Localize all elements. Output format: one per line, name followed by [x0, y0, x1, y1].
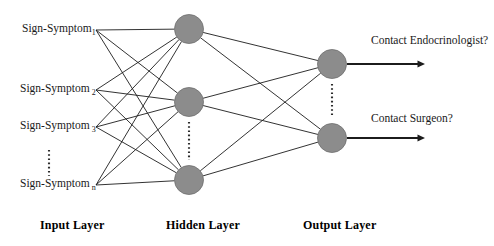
input-layer-label: Input Layer [40, 218, 105, 233]
edge-input2-hidden1 [96, 37, 177, 90]
edge-input2-hidden2 [96, 90, 175, 100]
output-arrow-head-1 [418, 61, 426, 68]
input-label-subscript: 2 [90, 88, 96, 97]
neural-network-diagram: Sign-Symptom1Sign-Symptom2Sign-Symptom3S… [0, 0, 494, 246]
edge-hidden2-output1 [203, 68, 318, 99]
output-node-1 [318, 50, 347, 79]
hidden-node-2 [175, 88, 204, 117]
hidden-node-3 [175, 166, 204, 195]
edge-input4-hidden3 [96, 181, 175, 185]
output-arrow-head-2 [418, 135, 426, 142]
input-label-text: Sign-Symptom [20, 119, 90, 131]
input-label-subscript: 1 [92, 28, 96, 37]
input-node-label-2: Sign-Symptom2 [20, 83, 96, 97]
output-node-label-2: Contact Surgeon? [371, 113, 453, 125]
edge-hidden1-output1 [203, 32, 318, 60]
input-label-text: Sign-Symptom [20, 177, 90, 189]
node-group [175, 15, 347, 195]
edge-input3-hidden3 [96, 127, 176, 173]
output-layer-label: Output Layer [303, 218, 376, 233]
edge-input3-hidden2 [96, 106, 175, 127]
edge-hidden2-output2 [203, 106, 318, 135]
input-label-text: Sign-Symptom [20, 82, 90, 94]
edge-input1-hidden1 [96, 29, 175, 30]
edge-hidden3-output2 [203, 142, 318, 176]
input-node-label-3: Sign-Symptom3 [20, 120, 96, 134]
edge-input3-hidden1 [96, 40, 179, 127]
output-node-label-1: Contact Endocrinologist? [371, 35, 488, 47]
edge-input4-hidden2 [96, 112, 178, 185]
output-arrow-group [347, 61, 425, 142]
input-label-subscript: n [90, 183, 96, 192]
hidden-layer-label: Hidden Layer [166, 218, 240, 233]
input-node-label-4: Sign-Symptomn [20, 178, 96, 192]
input-node-label-1: Sign-Symptom1 [22, 23, 96, 37]
edge-input2-hidden3 [96, 90, 179, 170]
hidden-node-1 [175, 15, 204, 44]
edge-hidden3-output1 [200, 73, 320, 171]
output-node-2 [318, 124, 347, 153]
edge-hidden1-output2 [201, 38, 321, 129]
edge-group [96, 29, 321, 185]
input-label-text: Sign-Symptom [22, 22, 92, 34]
input-label-subscript: 3 [90, 125, 96, 134]
